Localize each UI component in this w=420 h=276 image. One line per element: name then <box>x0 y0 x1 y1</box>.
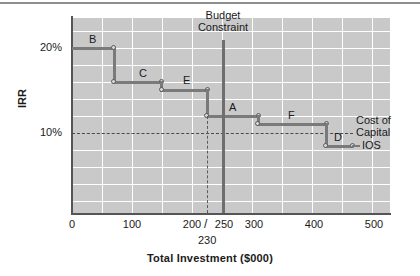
investment-230-line <box>207 116 208 213</box>
ios-segment-d <box>325 145 352 148</box>
ios-point-d-start <box>323 143 328 148</box>
top-rule <box>0 2 420 4</box>
y-axis-title: IRR <box>16 89 28 108</box>
legend-cost-of-capital-line2: Capital <box>356 126 391 138</box>
gridline-horizontal <box>72 167 390 168</box>
x-tick-100: 100 <box>122 218 142 230</box>
gridline-horizontal <box>72 184 390 185</box>
budget-constraint-label: Budget Constraint <box>176 9 270 33</box>
cost-of-capital-line <box>72 133 353 134</box>
step-label-e: E <box>183 74 190 86</box>
x-axis-line <box>71 213 391 215</box>
x-tick-300: 300 <box>242 218 266 230</box>
ios-point-c-start <box>111 79 116 84</box>
ios-drop-e-a <box>206 89 209 116</box>
gridline-horizontal <box>72 99 390 100</box>
step-label-d: D <box>334 131 342 143</box>
x-tick-230-slash: / <box>204 217 207 231</box>
gridline-horizontal <box>72 150 390 151</box>
step-label-b: B <box>89 33 96 45</box>
y-axis-line <box>71 16 73 215</box>
gridline-horizontal <box>72 65 390 66</box>
ios-point-b-end <box>111 45 116 50</box>
x-tick-400: 400 <box>302 218 326 230</box>
x-tick-230: 230 <box>198 234 216 246</box>
gridline-horizontal <box>72 201 390 202</box>
ios-segment-a <box>206 115 258 118</box>
ios-point-f-start <box>255 121 260 126</box>
ios-segment-c <box>113 81 161 84</box>
y-tick-20: 20% <box>22 41 62 53</box>
ios-segment-f <box>257 123 326 126</box>
legend-ios-label: IOS <box>362 139 381 151</box>
step-label-f: F <box>288 109 295 121</box>
step-label-a: A <box>229 101 236 113</box>
ios-segment-e <box>160 89 207 92</box>
ios-segment-b <box>72 47 116 50</box>
ios-drop-b-c <box>113 47 116 82</box>
y-tick-10: 10% <box>22 126 62 138</box>
budget-constraint-label-line1: Budget <box>176 9 270 21</box>
x-axis-title: Total Investment ($000) <box>0 252 420 264</box>
budget-constraint-line <box>222 40 225 213</box>
legend-cost-of-capital-line1: Cost of <box>356 114 391 126</box>
legend-ios-leader-line <box>352 145 360 147</box>
ios-point-e-start <box>159 87 164 92</box>
step-label-c: C <box>139 67 147 79</box>
chart-figure: B C E A F D Budget Constraint Cost of Ca… <box>0 0 420 276</box>
budget-constraint-label-line2: Constraint <box>176 21 270 33</box>
legend-cost-of-capital: Cost of Capital <box>356 114 391 138</box>
x-tick-200: 200 <box>182 218 202 230</box>
x-tick-0: 0 <box>62 218 82 230</box>
x-tick-250: 250 <box>212 218 236 230</box>
x-tick-500: 500 <box>362 218 386 230</box>
gridline-horizontal <box>72 48 390 49</box>
